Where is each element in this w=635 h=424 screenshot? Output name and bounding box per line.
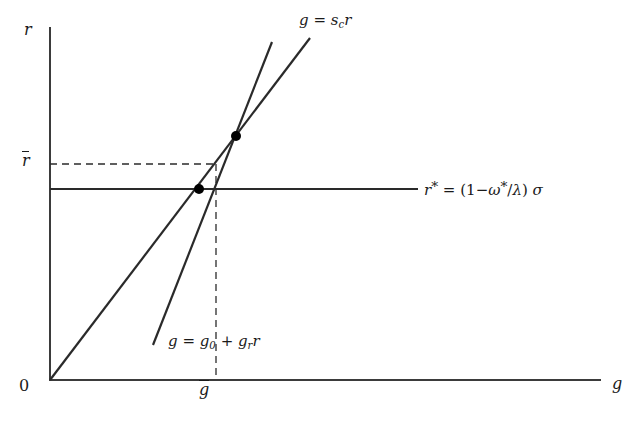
gbar-glyph: g	[199, 382, 209, 398]
y-tick-label-rbar: r	[22, 153, 30, 169]
sc-var: r	[344, 11, 351, 29]
sc-line-annotation: g = scr	[299, 13, 351, 30]
rstar-minus: −	[476, 181, 489, 199]
upper-equilibrium-marker	[231, 131, 241, 141]
g0-var: r	[252, 332, 259, 350]
g0-slope: g	[238, 332, 248, 350]
x-axis-label: g	[612, 376, 622, 392]
origin-label: 0	[19, 378, 29, 394]
g0-intercept-subscript: 0	[209, 340, 215, 351]
rstar-lhs-star: *	[431, 178, 438, 194]
rstar-lambda: λ	[512, 181, 522, 199]
sc-line	[50, 38, 310, 380]
rstar-line-annotation: r* = (1−ω*/λ) σ	[424, 180, 543, 198]
rstar-one: 1	[466, 181, 476, 199]
y-axis-label: r	[24, 22, 32, 38]
g0-line-annotation: g = g0 + grr	[168, 334, 260, 351]
g0-line	[153, 42, 272, 345]
rbar-glyph: r	[22, 153, 30, 169]
rstar-equals: =	[443, 181, 456, 199]
g0-equals: =	[182, 332, 195, 350]
x-tick-label-gbar: g	[199, 382, 209, 398]
lower-equilibrium-marker	[194, 184, 204, 194]
economics-figure: r g 0 r g g = scr g = g0 + grr r* = (1−ω…	[0, 0, 635, 424]
g0-intercept: g	[200, 332, 210, 350]
rstar-close-paren: )	[522, 181, 528, 199]
rstar-sigma: σ	[533, 181, 543, 199]
g0-lhs: g	[168, 332, 178, 350]
rstar-omega: ω	[488, 181, 500, 199]
sc-lhs: g	[299, 11, 309, 29]
g0-plus: +	[221, 332, 234, 350]
sc-equals: =	[313, 11, 326, 29]
plot-canvas	[0, 0, 635, 424]
